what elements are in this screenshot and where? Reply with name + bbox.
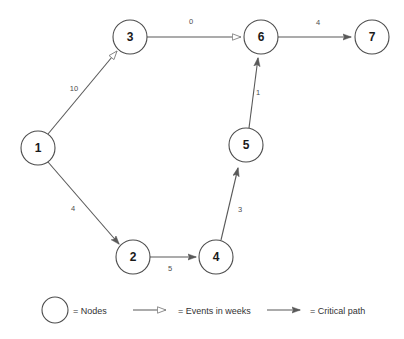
- legend-item-events: = Events in weeks: [133, 306, 251, 316]
- edge-6-7-label: 4: [316, 18, 320, 27]
- node-4[interactable]: 4: [199, 240, 233, 274]
- node-7-label: 7: [369, 30, 376, 44]
- legend: = Nodes = Events in weeks = Critical pat…: [42, 297, 365, 323]
- edge-4-5[interactable]: 3: [221, 168, 242, 240]
- edge-5-6-label: 1: [256, 88, 260, 97]
- node-1-label: 1: [35, 141, 42, 155]
- node-3[interactable]: 3: [113, 20, 147, 54]
- legend-nodes-label: = Nodes: [73, 306, 107, 316]
- edge-1-2[interactable]: 4: [48, 162, 119, 244]
- edge-2-4-label: 5: [168, 264, 172, 273]
- nodes-group: 1 2 3 4 5 6 7: [21, 20, 389, 274]
- edge-4-5-line: [221, 168, 238, 240]
- edge-1-2-line: [48, 162, 119, 244]
- node-3-label: 3: [127, 30, 134, 44]
- node-6-label: 6: [258, 30, 265, 44]
- node-7[interactable]: 7: [355, 20, 389, 54]
- node-5[interactable]: 5: [229, 128, 263, 162]
- legend-events-label: = Events in weeks: [178, 306, 251, 316]
- edge-3-6[interactable]: 0: [147, 17, 241, 38]
- edge-2-4[interactable]: 5: [150, 257, 196, 273]
- node-4-label: 4: [213, 250, 220, 264]
- node-6[interactable]: 6: [244, 20, 278, 54]
- legend-item-nodes: = Nodes: [42, 297, 107, 323]
- edges-group: 10 0 4 4 5: [48, 17, 351, 273]
- node-2-label: 2: [130, 250, 137, 264]
- edge-1-3[interactable]: 10: [48, 51, 117, 134]
- network-diagram: 10 0 4 4 5: [0, 0, 404, 339]
- legend-critical-path-label: = Critical path: [310, 306, 365, 316]
- node-1[interactable]: 1: [21, 131, 55, 165]
- edge-1-2-label: 4: [71, 204, 75, 213]
- edge-1-3-label: 10: [70, 84, 78, 93]
- diagram-canvas: 10 0 4 4 5: [0, 0, 404, 339]
- node-2[interactable]: 2: [116, 240, 150, 274]
- legend-node-circle-icon: [42, 297, 68, 323]
- node-5-label: 5: [243, 138, 250, 152]
- edge-4-5-label: 3: [238, 205, 242, 214]
- edge-5-6[interactable]: 1: [249, 58, 260, 128]
- edge-3-6-label: 0: [189, 17, 193, 26]
- legend-item-critical-path: = Critical path: [267, 306, 365, 316]
- edge-1-3-line: [48, 51, 117, 134]
- edge-6-7[interactable]: 4: [278, 18, 351, 38]
